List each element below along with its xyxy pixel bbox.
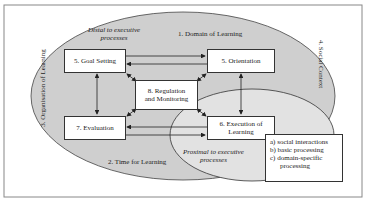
legend-box: a) social interactions b) basic processi… — [265, 134, 343, 182]
proximal-label-line2: processes — [183, 156, 244, 164]
evaluation-box: 7. Evaluation — [64, 116, 126, 140]
distal-label-line1: Distal to executive — [88, 26, 140, 34]
evaluation-text: 7. Evaluation — [76, 124, 113, 132]
regulation-monitoring-box: 8. Regulation and Monitoring — [135, 80, 198, 110]
legend-item-b: b) basic processing — [270, 146, 340, 154]
regulation-text-line2: and Monitoring — [145, 95, 189, 103]
distal-label: Distal to executive processes — [88, 26, 140, 42]
proximal-label: Proximal to executive processes — [183, 148, 244, 164]
organisation-of-learning-label: 3. Organisation of Learning — [39, 43, 47, 133]
goal-setting-text: 5. Goal Setting — [74, 57, 116, 65]
proximal-label-line1: Proximal to executive — [183, 148, 244, 156]
regulation-text-line1: 8. Regulation — [148, 87, 186, 95]
domain-of-learning-label: 1. Domain of Learning — [178, 30, 242, 38]
execution-text-line1: 6. Execution of — [220, 120, 263, 128]
orientation-text: 5. Orientation — [222, 57, 261, 65]
social-context-label: 4. Social Context — [317, 29, 325, 99]
execution-text-line2: Learning — [228, 128, 253, 136]
distal-label-line2: processes — [88, 34, 140, 42]
goal-setting-box: 5. Goal Setting — [64, 49, 126, 73]
legend-item-c: c) domain-specific — [270, 154, 340, 162]
orientation-box: 5. Orientation — [207, 49, 275, 73]
legend-item-c-cont: processing — [270, 162, 340, 170]
time-for-learning-label: 2. Time for Learning — [108, 158, 166, 166]
legend-item-a: a) social interactions — [270, 138, 340, 146]
